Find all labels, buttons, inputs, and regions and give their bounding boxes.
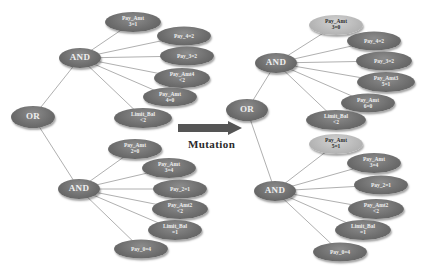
before-and-bottom-node: AND (58, 179, 100, 199)
after-bottom-leaf-5: Limit_Bal =1 (335, 220, 391, 240)
before-bottom-leaf-4: Pay_Amt2 <2 (152, 199, 208, 219)
after-and-top-node: AND (255, 53, 297, 73)
before-top-leaf-6: Limit_Bal <2 (114, 108, 172, 128)
before-bottom-leaf-6: Pay_0=4 (114, 240, 168, 259)
before-bottom-leaf-3: Pay_2=1 (153, 180, 207, 199)
after-top-leaf-1-mutated: Pay_Amt 3=0 (309, 15, 363, 35)
mutation-diagram: OR AND AND Pay_Amt 3=1 Pay_4=2 Pay_3=2 P… (0, 0, 431, 277)
before-bottom-leaf-5: Limit_Bal =1 (148, 220, 202, 240)
after-top-leaf-6: Limit_Bal <2 (306, 110, 366, 130)
before-top-leaf-2: Pay_4=2 (157, 27, 211, 46)
before-top-leaf-1: Pay_Amt 3=1 (105, 12, 161, 32)
after-or-node: OR (226, 99, 268, 121)
after-top-leaf-3: Pay_3=2 (356, 52, 412, 71)
after-and-bottom-node: AND (254, 181, 296, 201)
after-bottom-leaf-2: Pay_Amt 3=4 (347, 153, 401, 173)
mutation-arrow-icon (178, 121, 242, 135)
after-bottom-leaf-3: Pay_2=1 (354, 176, 408, 195)
before-top-leaf-3: Pay_3=2 (160, 47, 214, 66)
before-top-leaf-5: Pay_Amt 4=0 (143, 88, 197, 107)
after-bottom-leaf-4: Pay_Amt2 <2 (348, 199, 404, 219)
after-bottom-leaf-6: Pay_0=4 (313, 243, 367, 262)
after-top-leaf-5: Pay_Amt 6=0 (341, 94, 395, 113)
after-bottom-leaf-1-mutated: Pay_Amt 5=1 (309, 134, 363, 154)
after-top-leaf-4: Pay_Amt3 5=1 (357, 72, 415, 92)
before-bottom-leaf-1: Pay_Amt 2=0 (108, 139, 162, 159)
before-bottom-leaf-2: Pay_Amt 3=4 (142, 158, 196, 178)
before-or-node: OR (11, 106, 55, 128)
mutation-label: Mutation (188, 138, 235, 150)
after-top-leaf-2: Pay_4=2 (347, 32, 401, 51)
before-and-top-node: AND (59, 48, 101, 68)
before-top-leaf-4: Pay_Amt4 <2 (154, 68, 210, 88)
